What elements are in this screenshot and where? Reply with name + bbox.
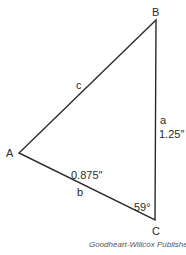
publisher-credit: Goodheart-Willcox Publisher [89,240,186,249]
side-length-b: 0.875″ [71,169,102,181]
side-label-c: c [76,79,82,91]
side-label-b: b [77,186,83,198]
triangle-abc [19,20,156,220]
side-length-a: 1.25″ [159,128,184,140]
angle-label-c: 59° [134,201,151,213]
vertex-label-b: B [152,6,159,18]
vertex-label-a: A [6,147,13,159]
vertex-label-c: C [152,225,160,237]
side-label-a: a [160,114,166,126]
